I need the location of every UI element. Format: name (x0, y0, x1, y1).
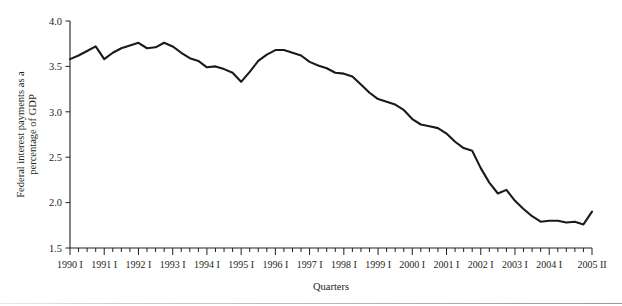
x-axis-tick-label: 1993 I (160, 259, 186, 270)
y-axis-tick-label: 2.5 (49, 152, 62, 163)
x-axis-tick-label: 2004 I (536, 259, 562, 270)
y-axis-title-line: percentage of GDP (27, 94, 38, 175)
footer-divider (0, 303, 622, 304)
x-axis-tick-label: 1998 I (331, 259, 357, 270)
y-axis-tick-label: 2.0 (49, 197, 62, 208)
y-axis-tick-label: 4.0 (49, 16, 62, 27)
x-axis-tick-label: 2003 I (502, 259, 528, 270)
x-axis-tick-label: 2005 II (577, 259, 606, 270)
data-series-federal-interest (70, 43, 592, 225)
x-axis-tick-label: 2002 I (468, 259, 494, 270)
line-chart: 1.52.02.53.03.54.0 1990 I1991 I1992 I199… (0, 0, 622, 306)
chart-figure: 1.52.02.53.03.54.0 1990 I1991 I1992 I199… (0, 0, 622, 306)
x-axis-tick-label: 1995 I (228, 259, 254, 270)
y-axis-tick-label: 3.5 (49, 61, 62, 72)
y-axis: 1.52.02.53.03.54.0 (49, 16, 70, 254)
x-axis-title-text: Quarters (313, 281, 349, 292)
x-axis-tick-label: 2001 I (434, 259, 460, 270)
x-axis-tick-label: 1996 I (262, 259, 288, 270)
series-line (70, 43, 592, 225)
y-axis-tick-label: 1.5 (49, 243, 62, 254)
y-axis-title: Federal interest payments as apercentage… (15, 71, 38, 198)
x-axis-title: Quarters (313, 281, 349, 292)
x-axis-tick-label: 1990 I (57, 259, 83, 270)
y-axis-tick-label: 3.0 (49, 107, 62, 118)
x-axis-tick-label: 1997 I (297, 259, 323, 270)
x-axis-tick-label: 1999 I (365, 259, 391, 270)
x-axis-tick-label: 1994 I (194, 259, 220, 270)
y-axis-title-line: Federal interest payments as a (15, 71, 26, 198)
x-axis-tick-label: 1992 I (126, 259, 152, 270)
x-axis-tick-label: 2000 I (399, 259, 425, 270)
x-axis-tick-label: 1991 I (91, 259, 117, 270)
x-axis: 1990 I1991 I1992 I1993 I1994 I1995 I1996… (57, 248, 607, 270)
